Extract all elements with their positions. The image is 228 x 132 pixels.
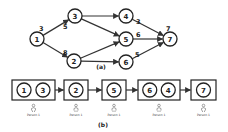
schedule-group-3: 5Person 1 <box>102 80 126 117</box>
schedule-group-1: 13Person 1 <box>12 80 55 117</box>
node-label: 6 <box>124 59 129 67</box>
edge-2-6 <box>81 61 119 62</box>
node-label: 5 <box>112 87 117 95</box>
node-label: 3 <box>41 87 46 95</box>
diagram-svg: 1324567 3583657 (a) 13Person 12Person 15… <box>0 0 228 132</box>
graph-node-1: 1 <box>30 32 44 46</box>
person-label: Person 1 <box>27 113 40 117</box>
person-icon <box>202 104 206 112</box>
person-icon <box>112 104 116 112</box>
schedule-node-2: 2 <box>69 83 83 97</box>
caption-a: (a) <box>96 63 106 70</box>
schedule-group-2: 2Person 1 <box>64 80 88 117</box>
schedule-group-5: 7Person 1 <box>191 80 216 117</box>
node-label: 3 <box>73 13 78 21</box>
schedule-b-groups: 13Person 12Person 15Person 164Person 17P… <box>12 80 216 117</box>
person-label: Person 1 <box>197 113 210 117</box>
schedule-group-4: 64Person 1 <box>138 80 180 117</box>
caption-b: (b) <box>98 121 108 128</box>
node-label: 6 <box>147 87 152 95</box>
node-label: 1 <box>35 36 40 44</box>
node-label: 2 <box>72 58 77 66</box>
graph-a-edges <box>43 16 163 62</box>
node-label: 7 <box>201 87 206 95</box>
edge-weight-label: 5 <box>63 23 68 31</box>
task-scheduling-diagram: 1324567 3583657 (a) 13Person 12Person 15… <box>0 0 228 132</box>
graph-node-2: 2 <box>67 54 81 68</box>
edge-weight-label: 3 <box>39 25 44 33</box>
graph-node-7: 7 <box>163 32 177 46</box>
person-icon <box>74 104 78 112</box>
node-label: 4 <box>124 13 129 21</box>
node-label: 7 <box>168 36 173 44</box>
node-label: 2 <box>74 87 79 95</box>
edge-weight-label: 5 <box>135 51 140 59</box>
edge-weight-label: 7 <box>166 25 171 33</box>
edge-weight-label: 6 <box>136 31 141 39</box>
edge-weight-label: 3 <box>136 18 141 26</box>
schedule-node-5: 5 <box>107 83 121 97</box>
person-icon <box>157 104 161 112</box>
graph-node-5: 5 <box>119 32 133 46</box>
schedule-node-6: 6 <box>143 83 157 97</box>
edge-2-5 <box>80 42 119 58</box>
node-label: 5 <box>124 36 129 44</box>
edge-3-5 <box>81 19 119 36</box>
schedule-node-1: 1 <box>17 83 31 97</box>
person-icon <box>32 104 36 112</box>
person-label: Person 1 <box>70 113 83 117</box>
person-label: Person 1 <box>153 113 166 117</box>
node-label: 4 <box>166 87 171 95</box>
schedule-node-7: 7 <box>197 83 211 97</box>
graph-node-3: 3 <box>68 9 82 23</box>
graph-node-4: 4 <box>119 9 133 23</box>
schedule-node-4: 4 <box>161 83 175 97</box>
edge-weight-label: 8 <box>63 49 68 57</box>
person-label: Person 1 <box>108 113 121 117</box>
schedule-node-3: 3 <box>36 83 50 97</box>
node-label: 1 <box>22 87 27 95</box>
graph-node-6: 6 <box>119 55 133 69</box>
